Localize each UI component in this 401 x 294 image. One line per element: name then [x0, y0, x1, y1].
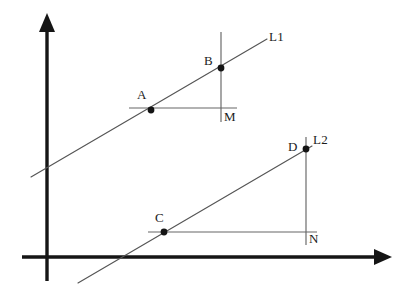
points-group [148, 65, 310, 236]
lines-group [31, 39, 312, 283]
x-axis-arrowhead [374, 249, 392, 265]
point-label-A: A [137, 88, 147, 101]
point-A-dot [148, 107, 155, 114]
point-label-M: M [224, 110, 236, 123]
point-D-dot [303, 146, 310, 153]
line-label-L2: L2 [313, 133, 328, 146]
line-L2 [78, 146, 312, 283]
diagram-canvas [0, 0, 401, 294]
point-B-dot [218, 65, 225, 72]
line-label-L1: L1 [269, 30, 284, 43]
point-label-C: C [155, 211, 164, 224]
point-label-N: N [309, 232, 319, 245]
point-label-D: D [288, 140, 298, 153]
y-axis-arrowhead [39, 13, 55, 32]
point-label-B: B [204, 54, 213, 67]
point-C-dot [161, 229, 168, 236]
geometry-diagram: A B C D M N L1 L2 [0, 0, 401, 294]
